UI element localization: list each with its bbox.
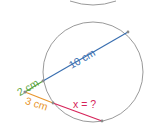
secant-diagram: 10 cm 2 cm 3 cm x = ? bbox=[0, 0, 153, 132]
label-x: x = ? bbox=[73, 98, 96, 110]
upper-circle-arc bbox=[70, 1, 116, 5]
intersection-point-3 bbox=[52, 102, 55, 105]
intersection-point-1 bbox=[42, 80, 45, 83]
label-10cm: 10 cm bbox=[66, 46, 97, 71]
intersection-point-2 bbox=[127, 31, 130, 34]
label-3cm: 3 cm bbox=[24, 94, 50, 113]
intersection-point-4 bbox=[101, 120, 104, 123]
